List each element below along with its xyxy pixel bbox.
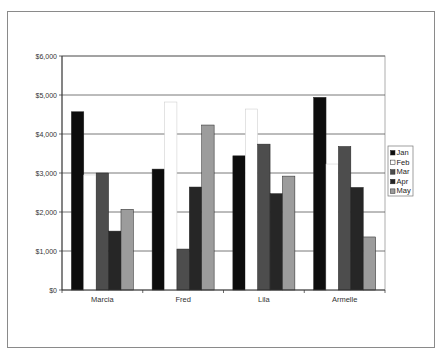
bar-lila-feb [245,109,257,290]
bar-marcia-apr [109,231,121,290]
x-category-label: Lila [258,295,271,304]
bar-marcia-jan [71,112,83,290]
x-axis-labels: MarciaFredLilaArmelle [91,295,357,304]
legend-label-jan: Jan [397,148,409,157]
bar-lila-mar [258,144,270,290]
y-tick-label: $6,000 [36,53,58,60]
bar-armelle-may [363,237,375,290]
bar-fred-may [202,125,214,290]
legend-swatch-jan [391,151,396,156]
bar-lila-apr [270,194,282,290]
bar-chart: $0$1,000$2,000$3,000$4,000$5,000$6,000 M… [0,0,444,359]
legend-label-apr: Apr [397,177,409,186]
bar-fred-apr [189,187,201,290]
bar-armelle-apr [351,187,363,290]
bar-fred-feb [165,102,177,290]
y-axis-labels: $0$1,000$2,000$3,000$4,000$5,000$6,000 [36,53,58,294]
y-tick-label: $0 [49,287,57,294]
legend-label-mar: Mar [397,167,410,176]
bar-fred-mar [177,249,189,290]
legend-label-feb: Feb [397,158,410,167]
y-tick-label: $5,000 [36,92,58,99]
bar-lila-jan [233,156,245,290]
legend-label-may: May [397,186,411,195]
x-category-label: Armelle [332,295,357,304]
y-tick-label: $1,000 [36,248,58,255]
bar-armelle-feb [326,164,338,290]
bar-fred-jan [152,169,164,290]
y-tick-label: $2,000 [36,209,58,216]
bar-marcia-mar [96,173,108,290]
legend-swatch-mar [391,170,396,175]
legend-swatch-may [391,189,396,194]
bar-armelle-mar [338,146,350,290]
bar-marcia-feb [84,175,96,290]
bars [71,97,375,290]
legend-swatch-feb [391,160,396,165]
x-category-label: Marcia [91,295,114,304]
y-tick-label: $3,000 [36,170,58,177]
x-category-label: Fred [175,295,190,304]
bar-lila-may [282,176,294,290]
legend: JanFebMarAprMay [388,146,413,196]
bar-armelle-jan [314,97,326,290]
y-tick-label: $4,000 [36,131,58,138]
legend-swatch-apr [391,179,396,184]
bar-marcia-may [121,209,133,290]
